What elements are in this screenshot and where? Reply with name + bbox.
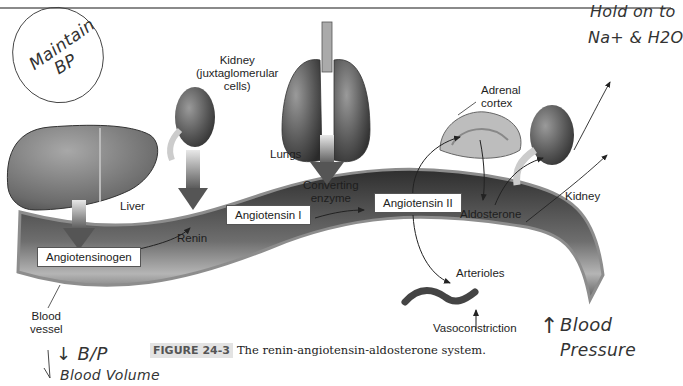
vasoconstriction-label: Vasoconstriction xyxy=(433,322,517,335)
liver-icon xyxy=(7,125,157,210)
handwritten-up-arrow: ↑ xyxy=(540,313,559,338)
kidney-jg-label-line1: Kidney xyxy=(196,54,278,67)
handwritten-hold-on-to: Hold on to xyxy=(590,2,676,21)
blood-vessel-line2: vessel xyxy=(30,323,63,336)
adrenal-label-line2: cortex xyxy=(481,97,521,110)
handwritten-down-arrow xyxy=(44,350,50,378)
blood-vessel-label: Blood vessel xyxy=(30,310,63,336)
flow-arrow-arterioles xyxy=(413,215,450,283)
handwritten-na-h2o: Na+ & H2O xyxy=(588,28,683,47)
kidney-jg-label: Kidney (juxtaglomerular cells) xyxy=(196,54,278,93)
lungs-label: Lungs xyxy=(270,148,301,161)
converting-enzyme-line1: Converting xyxy=(303,179,359,192)
figure-caption-text: The renin-angiotensin-aldosterone system… xyxy=(237,343,486,357)
blood-vessel-line1: Blood xyxy=(30,310,63,323)
handwritten-low-bp: ↓ B/P xyxy=(56,343,108,364)
renin-label: Renin xyxy=(177,232,207,245)
kidney-jg-label-line2: (juxtaglomerular xyxy=(196,67,278,80)
figure-caption: FIGURE 24-3The renin-angiotensin-aldoste… xyxy=(150,343,486,357)
adrenal-gland-icon xyxy=(440,112,521,158)
handwritten-blood-volume: Blood Volume xyxy=(60,367,160,383)
renin-down-arrow xyxy=(178,150,208,210)
handwritten-pressure: Pressure xyxy=(560,340,636,360)
adrenal-label-line1: Adrenal xyxy=(481,84,521,97)
kidney-jg-label-line3: cells) xyxy=(196,80,278,93)
blood-vessel-pointer xyxy=(48,285,60,308)
angiotensinogen-box: Angiotensinogen xyxy=(37,247,141,267)
arteriole-icon xyxy=(405,291,475,303)
kidney-jg-icon xyxy=(170,87,215,160)
angiotensin-2-box: Angiotensin II xyxy=(374,193,462,213)
adrenal-cortex-label: Adrenal cortex xyxy=(481,84,521,110)
converting-enzyme-line2: enzyme xyxy=(303,192,359,205)
liver-label: Liver xyxy=(120,200,145,213)
handwritten-blood: Blood xyxy=(560,314,612,335)
converting-enzyme-label: Converting enzyme xyxy=(303,179,359,205)
handwritten-arrow-2 xyxy=(574,82,610,150)
kidney-icon xyxy=(517,105,574,185)
kidney-label: Kidney xyxy=(565,190,600,203)
angiotensin-1-box: Angiotensin I xyxy=(226,205,311,225)
arterioles-label: Arterioles xyxy=(456,267,505,280)
aldosterone-label: Aldosterone xyxy=(460,208,521,221)
figure-number: FIGURE 24-3 xyxy=(150,343,233,358)
